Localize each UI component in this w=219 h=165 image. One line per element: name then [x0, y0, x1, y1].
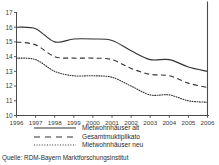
y-tick-label: 17: [5, 9, 13, 16]
series-line-2: [17, 58, 208, 102]
legend-item-1: Gesamtmuktiplikato: [0, 133, 219, 141]
chart-legend: Mietwohnhäuser alt Gesamtmuktiplikato Mi…: [0, 124, 219, 150]
plot-area: 1011121314151617 19961997199819992000200…: [0, 0, 219, 125]
chart-figure: 1011121314151617 19961997199819992000200…: [0, 0, 219, 165]
legend-label-1: Gesamtmuktiplikato: [82, 133, 140, 141]
y-tick-label: 16: [5, 24, 13, 31]
line-chart-svg: 1011121314151617 19961997199819992000200…: [0, 0, 219, 125]
legend-swatch-dotted: [33, 141, 77, 149]
legend-item-2: Mietwohnhäuser neu: [0, 141, 219, 149]
y-axis: 1011121314151617: [5, 9, 16, 119]
source-note: Quelle: RDM-Bayern Marktforschungsinstit…: [2, 154, 217, 161]
series-line-0: [17, 27, 208, 71]
y-tick-label: 12: [5, 82, 13, 89]
legend-swatch-solid: [33, 124, 77, 132]
y-tick-label: 14: [5, 53, 13, 60]
legend-label-0: Mietwohnhäuser alt: [82, 124, 139, 132]
y-tick-label: 13: [5, 68, 13, 75]
legend-swatch-dashed: [33, 133, 77, 141]
y-tick-label: 11: [6, 97, 13, 104]
y-tick-label: 15: [5, 38, 13, 45]
legend-label-2: Mietwohnhäuser neu: [82, 141, 143, 149]
data-series-group: [17, 27, 208, 102]
series-line-1: [17, 42, 208, 88]
legend-item-0: Mietwohnhäuser alt: [0, 124, 219, 132]
